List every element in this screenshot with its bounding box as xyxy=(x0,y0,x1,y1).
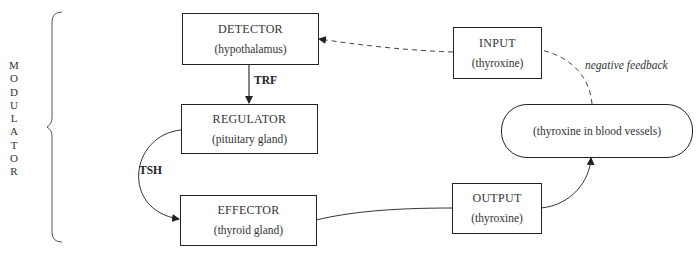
modulator-letter: D xyxy=(8,86,20,99)
detector-subtitle: (hypothalamus) xyxy=(214,41,286,57)
modulator-letter: L xyxy=(8,112,20,125)
modulator-brace xyxy=(47,12,62,242)
modulator-letter: R xyxy=(8,165,20,178)
modulator-letter: U xyxy=(8,99,20,112)
modulator-letter: O xyxy=(8,72,20,85)
regulator-subtitle: (pituitary gland) xyxy=(212,131,287,147)
output-box: OUTPUT (thyroxine) xyxy=(452,183,542,234)
effector-subtitle: (thyroid gland) xyxy=(214,222,283,238)
regulator-box: REGULATOR (pituitary gland) xyxy=(181,104,318,154)
detector-box: DETECTOR (hypothalamus) xyxy=(182,13,319,65)
input-title: INPUT xyxy=(479,36,516,51)
tsh-label: TSH xyxy=(139,164,162,176)
output-to-blood-arrow xyxy=(541,158,591,208)
effector-title: EFFECTOR xyxy=(217,203,279,218)
trf-label: TRF xyxy=(254,74,277,86)
blood-vessels-label: (thyroxine in blood vessels) xyxy=(533,123,661,139)
negative-feedback-label: negative feedback xyxy=(585,59,668,71)
detector-title: DETECTOR xyxy=(218,22,283,37)
modulator-letter: O xyxy=(8,152,20,165)
blood-vessels-node: (thyroxine in blood vessels) xyxy=(501,104,693,158)
modulator-letter: M xyxy=(8,59,20,72)
input-subtitle: (thyroxine) xyxy=(472,55,524,71)
output-subtitle: (thyroxine) xyxy=(471,210,523,226)
modulator-letter: T xyxy=(8,139,20,152)
output-title: OUTPUT xyxy=(472,191,521,206)
effector-box: EFFECTOR (thyroid gland) xyxy=(180,195,317,246)
modulator-label: M O D U L A T O R xyxy=(8,59,20,179)
effector-to-output-line xyxy=(316,208,452,220)
regulator-title: REGULATOR xyxy=(213,112,287,127)
input-to-detector-arrow xyxy=(319,39,453,52)
input-box: INPUT (thyroxine) xyxy=(453,27,542,79)
modulator-letter: A xyxy=(8,125,20,138)
